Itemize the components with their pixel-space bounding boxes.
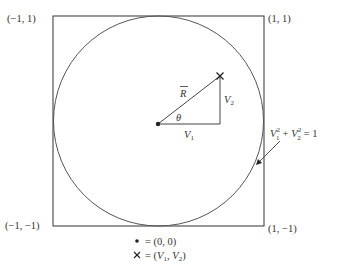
unit-square-circle-diagram: R θ V1 V2 (−1, 1) (1, 1) (−1, −1) (1, −1…	[0, 0, 342, 270]
radius-vector	[158, 76, 220, 124]
unit-circle	[54, 16, 264, 226]
corner-label-bottom-right: (1, −1)	[268, 223, 297, 235]
legend-point-text: = (V1, V2)	[145, 250, 186, 263]
corner-label-bottom-left: (−1, −1)	[5, 220, 40, 232]
legend-x-icon	[134, 252, 140, 258]
angle-label: θ	[176, 112, 181, 123]
unit-square	[53, 16, 264, 226]
corner-label-top-left: (−1, 1)	[7, 13, 36, 25]
vector-label: R	[179, 88, 187, 99]
v2-label: V2	[224, 94, 234, 107]
legend-dot-icon	[135, 239, 139, 243]
legend-origin-text: = (0, 0)	[145, 236, 177, 248]
legend: = (0, 0) = (V1, V2)	[134, 236, 186, 263]
v1-label: V1	[184, 129, 194, 142]
origin-dot-icon	[156, 122, 160, 126]
corner-label-top-right: (1, 1)	[268, 13, 291, 25]
circle-equation: V21+V22= 1	[270, 126, 318, 142]
